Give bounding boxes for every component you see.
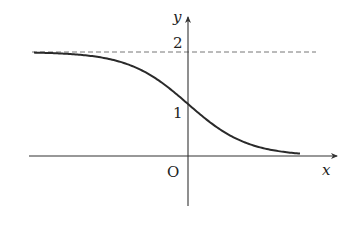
- y-axis-label: y: [172, 8, 182, 26]
- curve: [34, 53, 300, 154]
- chart: y x O 2 1: [0, 0, 352, 225]
- origin-label: O: [167, 163, 179, 181]
- y-tick-label-2: 2: [173, 34, 183, 52]
- x-axis-label: x: [322, 161, 331, 179]
- y-tick-label-1: 1: [173, 104, 183, 122]
